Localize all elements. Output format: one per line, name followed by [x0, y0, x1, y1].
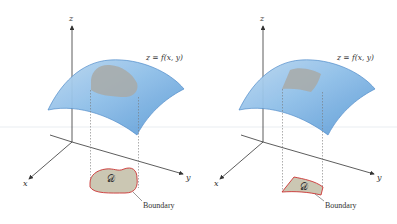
region-label: 𝒟: [300, 181, 308, 192]
x-axis-back: [241, 135, 263, 142]
boundary-leader: [133, 192, 142, 201]
x-axis: [220, 142, 263, 179]
y-axis: [263, 142, 374, 174]
boundary-label: Boundary: [325, 201, 357, 210]
figure-canvas: 𝒟 Boundary z x y z = f(x, y) 𝒟 Boundary …: [0, 0, 397, 224]
y-axis-label: y: [185, 173, 191, 182]
region-label: 𝒟: [107, 173, 115, 184]
boundary-label: Boundary: [143, 201, 175, 210]
panel-right: 𝒟 Boundary z x y z = f(x, y): [214, 14, 382, 210]
x-axis-label: x: [214, 179, 219, 188]
surface-label: z = f(x, y): [145, 53, 183, 62]
y-axis-label: y: [376, 173, 382, 182]
x-axis: [29, 142, 72, 179]
surface-label: z = f(x, y): [336, 53, 374, 62]
z-axis-label: z: [68, 14, 74, 23]
x-axis-label: x: [23, 179, 28, 188]
panel-left: 𝒟 Boundary z x y z = f(x, y): [23, 14, 191, 210]
z-axis-label: z: [259, 14, 265, 23]
x-axis-back: [50, 135, 72, 142]
